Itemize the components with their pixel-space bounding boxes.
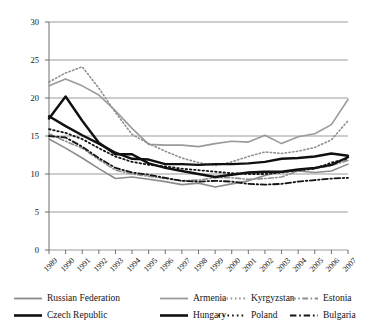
legend-swatch-icon <box>14 311 42 320</box>
y-axis-tick-label: 30 <box>15 17 39 27</box>
legend-item-kyrgyzstan[interactable]: Kyrgyzstan <box>218 288 295 305</box>
legend-label: Kyrgyzstan <box>251 293 295 303</box>
legend-label: Estonia <box>323 293 352 303</box>
series-line-hungary <box>49 116 348 165</box>
legend-label: Poland <box>251 310 277 320</box>
y-axis-tick-label: 10 <box>15 169 39 179</box>
legend-swatch-icon <box>160 294 188 303</box>
y-axis-tick-label: 25 <box>15 55 39 65</box>
legend-item-estonia[interactable]: Estonia <box>290 288 352 305</box>
legend-swatch-icon <box>290 311 318 320</box>
series-line-kyrgyzstan <box>49 67 348 166</box>
series-line-bulgaria <box>49 136 348 185</box>
y-axis-tick-label: 20 <box>15 93 39 103</box>
legend-item-armenia[interactable]: Armenia <box>160 288 226 305</box>
legend-swatch-icon <box>218 294 246 303</box>
legend-item-russian-federation[interactable]: Russian Federation <box>14 288 120 305</box>
legend-row: Czech RepublicHungaryPolandBulgaria <box>0 305 377 322</box>
plot-area <box>0 0 377 336</box>
legend-item-hungary[interactable]: Hungary <box>160 305 226 322</box>
legend-item-bulgaria[interactable]: Bulgaria <box>290 305 356 322</box>
legend-item-czech-republic[interactable]: Czech Republic <box>14 305 107 322</box>
legend-item-poland[interactable]: Poland <box>218 305 277 322</box>
y-axis-tick-label: 0 <box>15 245 39 255</box>
legend-label: Czech Republic <box>47 310 107 320</box>
line-chart: 051015202530 198919901991199219931994199… <box>0 0 377 336</box>
legend-swatch-icon <box>14 294 42 303</box>
legend-swatch-icon <box>290 294 318 303</box>
legend-row: Russian FederationArmeniaKyrgyzstanEston… <box>0 288 377 305</box>
legend-swatch-icon <box>160 311 188 320</box>
legend-swatch-icon <box>218 311 246 320</box>
y-axis-tick-label: 15 <box>15 131 39 141</box>
chart-legend: Russian FederationArmeniaKyrgyzstanEston… <box>0 288 377 322</box>
y-axis-tick-label: 5 <box>15 207 39 217</box>
legend-label: Bulgaria <box>323 310 356 320</box>
legend-label: Russian Federation <box>47 293 120 303</box>
